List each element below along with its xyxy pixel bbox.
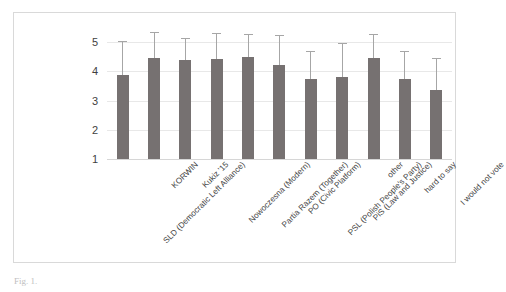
error-bar-cap xyxy=(118,41,127,42)
error-bar-whisker xyxy=(373,34,374,58)
bar xyxy=(273,65,285,159)
error-bar-whisker xyxy=(216,33,217,59)
bar-group xyxy=(389,42,420,159)
bar-group xyxy=(107,42,138,159)
error-bar-cap xyxy=(212,33,221,34)
bar-group xyxy=(327,42,358,159)
error-bar-whisker xyxy=(310,51,311,79)
bar-series xyxy=(107,42,452,159)
error-bar-cap xyxy=(275,35,284,36)
error-bar-cap xyxy=(400,51,409,52)
y-axis-ticks: 12345 xyxy=(14,42,107,159)
figure-caption: Fig. 1. xyxy=(14,276,464,290)
y-axis-tick-label: 1 xyxy=(92,153,98,165)
error-bar-cap xyxy=(306,51,315,52)
bar xyxy=(211,59,223,159)
error-bar-whisker xyxy=(185,38,186,61)
bar xyxy=(179,60,191,159)
bar-group xyxy=(232,42,263,159)
error-bar-whisker xyxy=(248,34,249,57)
bar xyxy=(399,79,411,159)
y-axis-tick-label: 2 xyxy=(92,124,98,136)
error-bar-whisker xyxy=(122,41,123,75)
error-bar-whisker xyxy=(404,51,405,79)
bar xyxy=(242,57,254,159)
error-bar-cap xyxy=(244,34,253,35)
error-bar-cap xyxy=(432,58,441,59)
bar-group xyxy=(295,42,326,159)
error-bar-cap xyxy=(181,38,190,39)
bar xyxy=(336,77,348,159)
error-bar-whisker xyxy=(342,43,343,76)
plot-area xyxy=(107,42,452,159)
bar-group xyxy=(358,42,389,159)
y-axis-tick-label: 4 xyxy=(92,65,98,77)
bar-group xyxy=(170,42,201,159)
bar-group xyxy=(138,42,169,159)
bar-group xyxy=(201,42,232,159)
error-bar-cap xyxy=(150,32,159,33)
error-bar-cap xyxy=(338,43,347,44)
x-axis-label-7: PSL (Polish People's Party) xyxy=(346,160,423,237)
x-axis-label-11: I would not vote xyxy=(459,160,506,207)
bar-group xyxy=(421,42,452,159)
x-axis-label-1: SLD (Democratic Left Alliance) xyxy=(161,160,246,245)
x-axis-label-2: KORWIN xyxy=(170,160,200,190)
figure-frame: 12345 SLD (Democratic Left Alliance)KORW… xyxy=(13,12,456,263)
error-bar-whisker xyxy=(436,58,437,90)
error-bar-cap xyxy=(369,34,378,35)
x-axis-category-labels: SLD (Democratic Left Alliance)KORWINKuki… xyxy=(107,160,452,264)
bar xyxy=(368,58,380,159)
y-axis-tick-label: 5 xyxy=(92,36,98,48)
error-bar-whisker xyxy=(279,35,280,64)
bar xyxy=(117,75,129,159)
x-axis-label-5: Partia Razem (Together) xyxy=(280,160,349,229)
x-axis-label-4: Nowoczesna (Modern) xyxy=(247,160,312,225)
bar-group xyxy=(264,42,295,159)
bar xyxy=(305,79,317,159)
y-axis-tick-label: 3 xyxy=(92,95,98,107)
bar xyxy=(148,58,160,159)
bar xyxy=(430,90,442,159)
error-bar-whisker xyxy=(154,32,155,58)
